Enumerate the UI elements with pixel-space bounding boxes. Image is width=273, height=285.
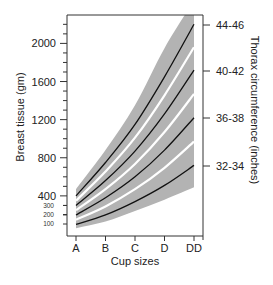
y-tick-label-small: 300	[43, 202, 54, 209]
y2-tick-label: 36-38	[216, 112, 244, 124]
y-tick-label: 2000	[32, 37, 56, 49]
x-axis-title: Cup sizes	[111, 255, 160, 267]
y-tick-label: 400	[38, 190, 56, 202]
x-axis-ticks: ABCDDD	[72, 236, 202, 254]
y-tick-label: 800	[38, 152, 56, 164]
y2-tick-label: 44-46	[216, 19, 244, 31]
y-axis-ticks: 400800120016002000100200300	[32, 24, 67, 227]
x-tick-label: D	[161, 242, 169, 254]
y-tick-label-small: 200	[43, 211, 54, 218]
y2-tick-label: 40-42	[216, 65, 244, 77]
y2-axis-title: Thorax circumference (inches)	[249, 36, 261, 185]
y-tick-label: 1600	[32, 76, 56, 88]
x-tick-label: DD	[186, 242, 202, 254]
y2-axis-ticks: 32-3436-3840-4244-46	[203, 19, 244, 172]
breast-tissue-chart: 400800120016002000100200300 32-3436-3840…	[0, 0, 273, 285]
x-tick-label: C	[131, 242, 139, 254]
plot-area	[76, 1, 194, 229]
y-axis-title: Breast tissue (gm)	[14, 72, 26, 161]
x-tick-label: B	[102, 242, 109, 254]
x-tick-label: A	[72, 242, 80, 254]
y2-tick-label: 32-34	[216, 160, 244, 172]
gray-band	[76, 1, 194, 229]
y-tick-label: 1200	[32, 114, 56, 126]
y-tick-label-small: 100	[43, 220, 54, 227]
